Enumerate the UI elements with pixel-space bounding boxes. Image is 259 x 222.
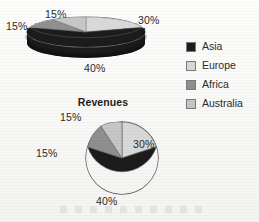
figure-canvas: 30% 40% 15% 15% Revenues 30% 40% 15% 15%… <box>0 0 259 222</box>
scan-artifact <box>60 206 210 213</box>
pie-3d-label-40: 40% <box>84 63 106 74</box>
legend-swatch-europe <box>186 61 196 71</box>
pie-2d-slices <box>86 122 158 194</box>
legend-item-africa[interactable]: Africa <box>186 77 258 92</box>
legend-swatch-asia <box>186 42 196 52</box>
chart-title-revenues: Revenues <box>0 96 206 108</box>
pie-2d-label-15-top: 15% <box>60 112 82 123</box>
legend-swatch-australia <box>186 99 196 109</box>
pie-3d-surface <box>27 17 145 47</box>
legend-item-asia[interactable]: Asia <box>186 39 258 54</box>
pie-3d-label-15-left: 15% <box>6 21 28 32</box>
legend-item-australia[interactable]: Australia <box>186 96 258 111</box>
pie-3d-label-30: 30% <box>138 15 160 26</box>
legend-label-asia: Asia <box>202 41 222 52</box>
legend-label-australia: Australia <box>202 98 243 109</box>
pie-chart-2d <box>86 122 158 194</box>
legend-label-europe: Europe <box>202 60 236 71</box>
pie-3d-slices <box>27 17 145 47</box>
legend-item-europe[interactable]: Europe <box>186 58 258 73</box>
legend-label-africa: Africa <box>202 79 229 90</box>
pie-chart-3d <box>27 17 145 65</box>
legend: Asia Europe Africa Australia <box>186 39 258 115</box>
legend-swatch-africa <box>186 80 196 90</box>
pie-2d-label-40: 40% <box>96 196 118 207</box>
pie-2d-label-30: 30% <box>133 139 155 150</box>
pie-2d-label-15-left: 15% <box>36 148 58 159</box>
